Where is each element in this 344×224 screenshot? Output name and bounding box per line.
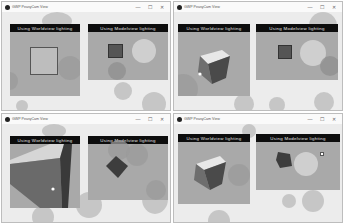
cube-shape [192,42,236,88]
cube-shape [30,47,58,75]
title-bar[interactable]: GWP PeasyCam View — ☐ ✕ [2,2,170,12]
app-icon [5,117,10,122]
cube-shape [278,45,292,59]
minimize-button[interactable]: — [304,114,316,124]
worldview-panel[interactable]: Using Worldview lighting [178,134,250,204]
worldview-panel[interactable]: Using Worldview lighting [178,24,250,96]
background-bubble [146,180,166,200]
window-title: GWP PeasyCam View [184,5,220,9]
background-bubble [10,72,18,90]
close-button[interactable]: ✕ [156,2,168,12]
sketch-canvas[interactable]: Using Worldview lighting Using Modelview… [174,124,342,222]
panel-label: Using Modelview lighting [88,136,168,144]
cube-shape [106,156,130,180]
close-button[interactable]: ✕ [328,2,340,12]
sphere-shape [132,39,156,63]
window-title: GWP PeasyCam View [12,5,48,9]
background-bubble [314,92,334,110]
maximize-button[interactable]: ☐ [144,114,156,124]
cube-shape [108,44,123,58]
app-icon [5,5,10,10]
modelview-panel[interactable]: Using Modelview lighting [88,136,168,200]
background-bubble [234,94,254,110]
panel-label: Using Worldview lighting [10,136,80,144]
background-bubble [16,100,28,110]
cursor-indicator [320,152,324,156]
modelview-panel[interactable]: Using Modelview lighting [256,134,340,190]
cube-shape [190,148,234,192]
title-bar[interactable]: GWP PeasyCam View — ☐ ✕ [2,114,170,124]
minimize-button[interactable]: — [132,2,144,12]
window-title: GWP PeasyCam View [12,117,48,121]
maximize-button[interactable]: ☐ [316,2,328,12]
maximize-button[interactable]: ☐ [316,114,328,124]
sketch-canvas[interactable]: Using Worldview lighting Using Modelview… [174,12,342,110]
sphere-shape [294,152,318,176]
maximize-button[interactable]: ☐ [144,2,156,12]
app-icon [177,5,182,10]
title-bar[interactable]: GWP PeasyCam View — ☐ ✕ [174,2,342,12]
background-bubble [32,206,54,222]
sketch-canvas[interactable]: Using Worldview lighting Using Modelview… [2,12,170,110]
title-bar[interactable]: GWP PeasyCam View — ☐ ✕ [174,114,342,124]
worldview-panel[interactable]: Using Worldview lighting [10,136,80,208]
panel-label: Using Worldview lighting [178,134,250,142]
background-bubble [114,82,132,100]
panel-label: Using Worldview lighting [10,24,80,32]
background-bubble [142,92,166,110]
peasycam-window-1[interactable]: GWP PeasyCam View — ☐ ✕ Using Worldview … [1,1,171,111]
background-bubble [320,56,338,76]
cube-shape [10,144,80,208]
minimize-button[interactable]: — [132,114,144,124]
worldview-panel[interactable]: Using Worldview lighting [10,24,80,96]
sketch-canvas[interactable]: Using Worldview lighting Using Modelview… [2,124,170,222]
background-bubble [208,210,230,222]
panel-label: Using Modelview lighting [88,24,168,32]
app-icon [177,117,182,122]
panel-label: Using Modelview lighting [256,134,340,142]
peasycam-window-3[interactable]: GWP PeasyCam View — ☐ ✕ Using Worldview … [1,113,171,223]
background-bubble [58,56,80,80]
background-bubble [269,97,285,110]
panel-label: Using Worldview lighting [178,24,250,32]
background-bubble [282,194,296,208]
peasycam-window-4[interactable]: GWP PeasyCam View — ☐ ✕ Using Worldview … [173,113,343,223]
modelview-panel[interactable]: Using Modelview lighting [256,24,338,80]
background-bubble [108,62,126,80]
window-title: GWP PeasyCam View [184,117,220,121]
panel-label: Using Modelview lighting [256,24,338,32]
close-button[interactable]: ✕ [328,114,340,124]
close-button[interactable]: ✕ [156,114,168,124]
minimize-button[interactable]: — [304,2,316,12]
background-bubble [302,190,324,212]
modelview-panel[interactable]: Using Modelview lighting [88,24,168,80]
cube-shape [274,150,294,170]
peasycam-window-2[interactable]: GWP PeasyCam View — ☐ ✕ Using Worldview … [173,1,343,111]
